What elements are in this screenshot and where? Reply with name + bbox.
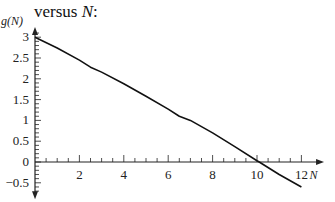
x-axis-arrow-icon [316,159,324,165]
x-tick-label: 12 [295,167,308,182]
line-chart: −0.500.511.522.5324681012Ng(N) [0,0,335,202]
y-tick-label: 0 [23,154,30,169]
x-tick-label: 8 [209,167,216,182]
x-tick-label: 6 [165,167,172,182]
x-axis-label: N [308,168,318,182]
y-tick-label: 2.5 [13,50,29,65]
y-axis-arrow-up-icon [32,27,38,35]
y-tick-label: 3 [23,29,30,44]
x-tick-label: 10 [251,167,264,182]
x-tick-label: 2 [76,167,83,182]
y-tick-label: −0.5 [5,175,29,190]
y-tick-label: 0.5 [13,133,29,148]
y-tick-label: 2 [23,71,30,86]
y-tick-label: 1.5 [13,92,29,107]
x-tick-label: 4 [121,167,128,182]
y-tick-label: 1 [23,112,30,127]
y-axis-arrow-down-icon [32,191,38,199]
y-axis-label: g(N) [1,14,23,28]
data-line [35,37,301,187]
